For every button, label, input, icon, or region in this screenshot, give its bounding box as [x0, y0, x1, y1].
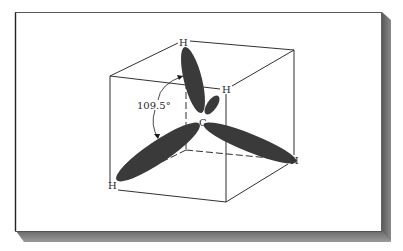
hydrogen-label-right: H: [290, 155, 299, 166]
angle-label: 109.5°: [137, 100, 171, 111]
frame-shadow-right: [382, 12, 391, 242]
diagram-figure: 109.5° C H H H H: [0, 0, 403, 251]
tetrahedral-diagram: 109.5° C H H H H: [0, 0, 403, 251]
hydrogen-label-top: H: [179, 37, 188, 48]
hydrogen-label-bottom-left: H: [108, 180, 117, 191]
hydrogen-label-front-right: H: [222, 84, 231, 95]
carbon-label: C: [199, 117, 207, 128]
frame-shadow-bottom: [16, 231, 391, 242]
